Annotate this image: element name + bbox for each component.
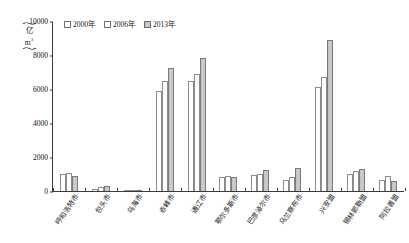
bar [168, 68, 174, 191]
x-tick-mark [405, 188, 406, 191]
x-axis-label: 乌海市 [126, 193, 144, 215]
x-tick-mark [373, 188, 374, 191]
bar-group [340, 22, 372, 191]
y-axis-unit-label: ～ 亿 m3 ～ [16, 22, 42, 51]
bar [72, 176, 78, 191]
bar-group [149, 22, 181, 191]
x-tick-mark [213, 188, 214, 191]
x-axis-label: 兴安盟 [318, 193, 336, 215]
bar-group [53, 22, 85, 191]
bar [359, 169, 365, 191]
bar [295, 168, 301, 191]
bar [231, 177, 237, 191]
bar [136, 190, 142, 191]
bar-group [372, 22, 404, 191]
x-axis-label: 包头市 [94, 193, 112, 215]
x-axis-label: 巴彦淖尔市 [246, 193, 272, 226]
bar [104, 186, 110, 191]
plot-area: 0200040006000800010000 [52, 22, 404, 192]
y-unit-bottom-paren: ～ [2, 47, 57, 51]
bar-group [276, 22, 308, 191]
bar [327, 40, 333, 191]
bar [200, 58, 206, 191]
x-axis-label: 通辽市 [190, 193, 208, 215]
x-axis-label: 乌兰察布市 [278, 193, 304, 226]
x-axis-label: 呼和浩特市 [54, 193, 80, 226]
bar-group [117, 22, 149, 191]
x-axis-labels: 呼和浩特市包头市乌海市赤峰市通辽市鄂尔多斯市巴彦淖尔市乌兰察布市兴安盟锡林郭勒盟… [52, 193, 404, 243]
bar-group [244, 22, 276, 191]
x-axis-label: 锡林郭勒盟 [342, 193, 368, 226]
bar-chart: ～ 亿 m3 ～ 2000年 2006年 2013年 0200040006000… [0, 0, 409, 243]
bar-group [85, 22, 117, 191]
x-tick-mark [117, 188, 118, 191]
x-tick-mark [277, 188, 278, 191]
x-tick-mark [309, 188, 310, 191]
x-tick-mark [53, 188, 54, 191]
x-tick-mark [149, 188, 150, 191]
x-axis-label: 阿拉善盟 [378, 193, 400, 221]
bar [263, 170, 269, 191]
bar-series-container [53, 22, 404, 191]
bar-group [308, 22, 340, 191]
bar-group [213, 22, 245, 191]
x-tick-mark [181, 188, 182, 191]
bar [391, 181, 397, 191]
x-tick-mark [245, 188, 246, 191]
x-tick-mark [341, 188, 342, 191]
x-tick-mark [85, 188, 86, 191]
bar-group [181, 22, 213, 191]
x-axis-label: 鄂尔多斯市 [214, 193, 240, 226]
x-axis-label: 赤峰市 [158, 193, 176, 215]
